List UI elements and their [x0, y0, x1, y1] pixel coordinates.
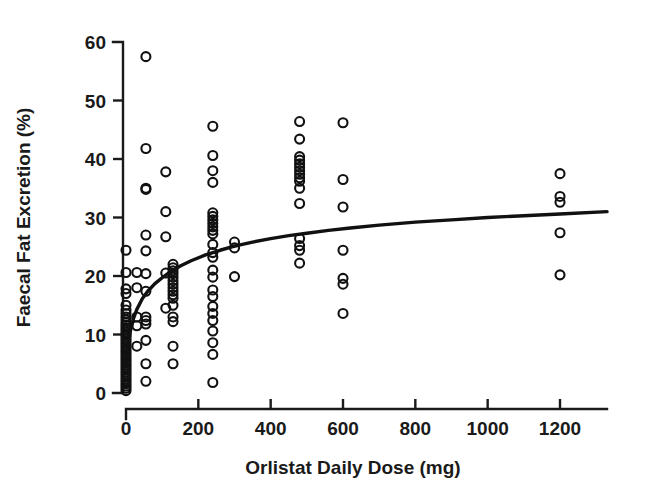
data-point [339, 246, 348, 255]
y-axis-title: Faecal Fat Excretion (%) [13, 108, 34, 328]
x-tick-label: 400 [255, 418, 287, 439]
y-tick-label: 40 [85, 149, 106, 170]
data-point [295, 259, 304, 268]
data-point [230, 272, 239, 281]
data-point [208, 378, 217, 387]
data-point [141, 269, 150, 278]
data-point [141, 377, 150, 386]
data-point [339, 175, 348, 184]
data-point [339, 202, 348, 211]
data-point [295, 199, 304, 208]
data-point [208, 151, 217, 160]
y-tick-label: 30 [85, 208, 106, 229]
data-point [556, 270, 565, 279]
data-point [339, 309, 348, 318]
data-point [141, 246, 150, 255]
data-point [141, 359, 150, 368]
data-point [169, 359, 178, 368]
data-point [161, 167, 170, 176]
data-point [208, 350, 217, 359]
data-point [132, 283, 141, 292]
x-tick-label: 1200 [539, 418, 581, 439]
dose-response-fit-curve [126, 212, 607, 364]
data-point [169, 342, 178, 351]
y-tick-label: 60 [85, 32, 106, 53]
data-point [339, 280, 348, 289]
data-point [208, 122, 217, 131]
y-tick-label: 50 [85, 91, 106, 112]
data-point [556, 228, 565, 237]
x-axis-title: Orlistat Daily Dose (mg) [245, 457, 460, 478]
data-point [208, 292, 217, 301]
data-point [132, 342, 141, 351]
x-tick-label: 1000 [467, 418, 509, 439]
data-point [141, 52, 150, 61]
data-point [161, 232, 170, 241]
data-point [295, 117, 304, 126]
data-point [141, 144, 150, 153]
data-point [132, 268, 141, 277]
data-point [208, 338, 217, 347]
data-point [339, 118, 348, 127]
data-point [556, 169, 565, 178]
x-tick-label: 800 [399, 418, 431, 439]
data-point [556, 198, 565, 207]
data-point [208, 166, 217, 175]
data-point [161, 207, 170, 216]
fit-curve-group [126, 212, 607, 364]
data-point [208, 178, 217, 187]
x-tick-label: 0 [121, 418, 132, 439]
y-tick-label: 10 [85, 325, 106, 346]
y-tick-label: 20 [85, 266, 106, 287]
axes-group [113, 42, 607, 419]
chart-canvas: 0102030405060020040060080010001200Orlist… [0, 0, 646, 491]
data-point [141, 336, 150, 345]
scatter-plot-figure: 0102030405060020040060080010001200Orlist… [0, 0, 646, 491]
y-tick-label: 0 [95, 383, 106, 404]
x-tick-label: 200 [182, 418, 214, 439]
data-points-group [122, 52, 565, 395]
data-point [295, 135, 304, 144]
x-tick-label: 600 [327, 418, 359, 439]
data-point [208, 326, 217, 335]
data-point [141, 231, 150, 240]
